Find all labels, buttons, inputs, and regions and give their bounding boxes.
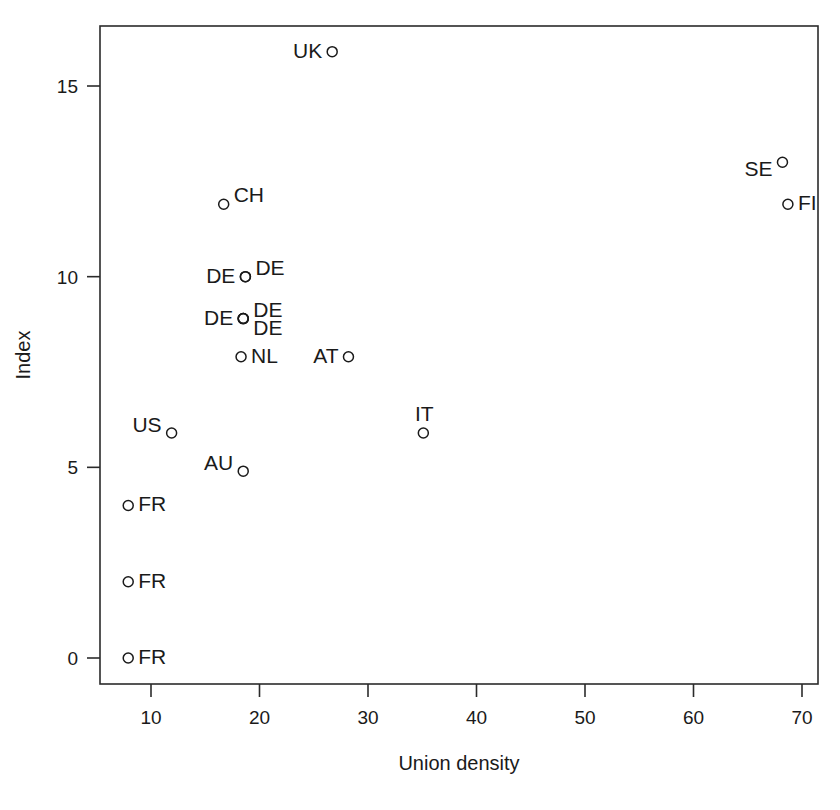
- point-label: IT: [415, 402, 434, 425]
- y-tick-label: 15: [57, 76, 78, 97]
- x-tick-label: 40: [466, 707, 487, 728]
- x-axis-title: Union density: [398, 752, 519, 774]
- point-label: DE: [253, 316, 282, 339]
- x-tick-label: 10: [140, 707, 161, 728]
- scatter-plot-figure: 10203040506070 051015 UKSEFICHDEDEDEDEDE…: [0, 0, 840, 810]
- point-label: US: [132, 413, 161, 436]
- point-label: CH: [234, 183, 264, 206]
- y-tick-label: 0: [67, 648, 78, 669]
- point-label: UK: [293, 39, 322, 62]
- point-label: DE: [204, 306, 233, 329]
- y-tick-label: 5: [67, 457, 78, 478]
- point-label: FR: [138, 645, 166, 668]
- y-axis-title: Index: [12, 331, 34, 380]
- plot-canvas: 10203040506070 051015 UKSEFICHDEDEDEDEDE…: [0, 0, 840, 810]
- point-label: AT: [313, 344, 338, 367]
- x-tick-label: 30: [357, 707, 378, 728]
- x-tick-label: 60: [683, 707, 704, 728]
- point-label: SE: [744, 157, 772, 180]
- x-tick-label: 70: [791, 707, 812, 728]
- point-label: FR: [138, 492, 166, 515]
- point-label: FI: [798, 191, 817, 214]
- x-tick-label: 20: [249, 707, 270, 728]
- y-tick-label: 10: [57, 267, 78, 288]
- point-label: NL: [251, 344, 278, 367]
- point-label: FR: [138, 569, 166, 592]
- point-label: DE: [255, 256, 284, 279]
- point-label: DE: [206, 264, 235, 287]
- x-tick-label: 50: [574, 707, 595, 728]
- point-label: AU: [204, 451, 233, 474]
